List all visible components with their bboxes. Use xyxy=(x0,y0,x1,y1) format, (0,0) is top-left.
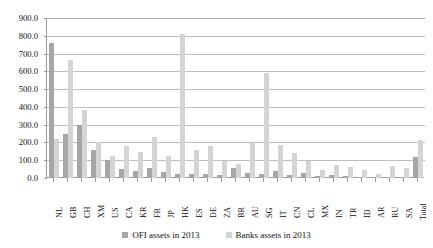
bar-group xyxy=(327,18,341,178)
x-axis-tick-label: RU xyxy=(392,207,400,218)
bar-banks xyxy=(418,140,423,178)
x-axis-tick-label: FR xyxy=(154,208,162,218)
bar-banks xyxy=(110,156,115,178)
x-axis-tick-mark xyxy=(305,178,306,182)
x-axis-tick-label: ZA xyxy=(224,207,232,218)
y-axis-tick-mark xyxy=(44,71,47,72)
bar-ofi xyxy=(413,157,418,178)
bar-banks xyxy=(306,161,311,178)
bar-group xyxy=(397,18,411,178)
bar-banks xyxy=(404,168,409,178)
bar-banks xyxy=(96,142,101,178)
bar-banks xyxy=(250,143,255,178)
x-axis-tick-mark xyxy=(277,178,278,182)
bar-group xyxy=(61,18,75,178)
bar-banks xyxy=(194,150,199,178)
bar-group xyxy=(271,18,285,178)
bar-group xyxy=(229,18,243,178)
bar-group xyxy=(411,18,425,178)
bar-banks xyxy=(138,152,143,178)
bar-banks xyxy=(124,146,129,178)
x-axis-tick-label: IT xyxy=(280,210,288,218)
bar-banks xyxy=(152,137,157,178)
x-axis-tick-label: HK xyxy=(182,206,190,218)
y-axis-tick-mark xyxy=(44,160,47,161)
legend-item[interactable]: OFI assets in 2013 xyxy=(122,230,199,240)
x-axis-tick-label: Total xyxy=(420,203,428,220)
bar-banks xyxy=(334,165,339,178)
bar-banks xyxy=(278,145,283,178)
bar-group xyxy=(215,18,229,178)
y-axis-tick-label: 600.0 xyxy=(0,67,38,76)
x-axis-tick-label: CN xyxy=(294,207,302,218)
bar-group xyxy=(159,18,173,178)
legend-label: OFI assets in 2013 xyxy=(132,230,199,240)
x-axis-tick-label: TR xyxy=(350,208,358,218)
chart-legend: OFI assets in 2013Banks assets in 2013 xyxy=(0,226,433,244)
x-axis-tick-mark xyxy=(207,178,208,182)
x-axis-tick-mark xyxy=(193,178,194,182)
y-axis-tick-label: 100.0 xyxy=(0,156,38,165)
bar-banks xyxy=(292,153,297,178)
bar-group xyxy=(201,18,215,178)
y-axis-tick-label: 400.0 xyxy=(0,103,38,112)
x-axis-tick-mark xyxy=(53,178,54,182)
y-axis-tick-label: 300.0 xyxy=(0,120,38,129)
bar-ofi xyxy=(77,125,82,178)
bar-banks xyxy=(320,170,325,178)
x-axis-tick-mark xyxy=(67,178,68,182)
bar-ofi xyxy=(133,171,138,178)
x-axis-tick-mark xyxy=(221,178,222,182)
x-axis-tick-label: JP xyxy=(168,210,176,218)
y-axis-tick-label: 200.0 xyxy=(0,138,38,147)
bar-ofi xyxy=(49,43,54,178)
bar-ofi xyxy=(119,169,124,178)
x-axis-tick-mark xyxy=(151,178,152,182)
bar-group xyxy=(75,18,89,178)
y-axis-tick-mark xyxy=(44,125,47,126)
bar-banks xyxy=(236,164,241,178)
y-axis-tick-label: 0.0 xyxy=(0,174,38,183)
x-axis-tick-mark xyxy=(319,178,320,182)
bar-ofi xyxy=(91,150,96,178)
bar-group xyxy=(131,18,145,178)
bar-banks xyxy=(362,170,367,178)
bar-group xyxy=(145,18,159,178)
bar-banks xyxy=(166,156,171,178)
bar-banks xyxy=(222,161,227,178)
bar-group xyxy=(341,18,355,178)
x-axis-tick-label: IN xyxy=(336,209,344,218)
x-axis-tick-label: GB xyxy=(70,207,78,218)
x-axis-tick-mark xyxy=(291,178,292,182)
x-axis-tick-label: AU xyxy=(252,206,260,218)
bar-banks xyxy=(208,146,213,178)
bar-group xyxy=(173,18,187,178)
bar-series-group xyxy=(47,18,425,178)
bar-banks xyxy=(54,139,59,178)
bar-ofi xyxy=(147,168,152,178)
y-axis-tick-mark xyxy=(44,18,47,19)
chart-container: 0.0100.0200.0300.0400.0500.0600.0700.080… xyxy=(0,0,433,248)
bar-ofi xyxy=(231,168,236,178)
x-axis-tick-label: NL xyxy=(56,207,64,218)
x-axis-tick-label: SG xyxy=(266,208,274,218)
bar-group xyxy=(187,18,201,178)
bar-group xyxy=(103,18,117,178)
x-axis-tick-mark xyxy=(137,178,138,182)
x-axis-tick-label: KR xyxy=(140,207,148,218)
legend-item[interactable]: Banks assets in 2013 xyxy=(226,230,311,240)
x-axis-tick-mark xyxy=(165,178,166,182)
bar-group xyxy=(257,18,271,178)
x-axis-tick-label: CA xyxy=(126,207,134,218)
bar-banks xyxy=(68,60,73,178)
x-axis-tick-label: AR xyxy=(378,207,386,218)
x-axis-tick-label: DE xyxy=(210,207,218,218)
bar-group xyxy=(369,18,383,178)
bar-ofi xyxy=(105,160,110,178)
y-axis-tick-mark xyxy=(44,107,47,108)
x-axis-tick-mark xyxy=(403,178,404,182)
y-axis-tick-label: 700.0 xyxy=(0,49,38,58)
plot-area xyxy=(46,18,424,178)
y-axis-tick-mark xyxy=(44,142,47,143)
x-axis-tick-mark xyxy=(249,178,250,182)
